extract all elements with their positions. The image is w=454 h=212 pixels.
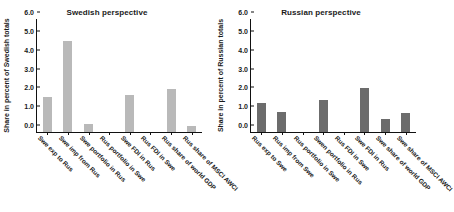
y-axis-tick-label: 4.0 [238,46,251,53]
bar [167,89,176,132]
bar-slot [161,19,182,132]
bar-slot [375,19,396,132]
y-axis-tick-label: 5.0 [24,27,37,34]
bar [63,41,72,132]
y-axis-tick-label: 5.0 [238,27,251,34]
y-axis-label: Share in percent of Russian totals [215,14,226,136]
bar-slot [140,19,161,132]
bar [257,103,266,132]
y-axis-tick-label: 2.0 [24,84,37,91]
chart-panel-swedish-perspective: Swedish perspective Share in percent of … [0,0,214,212]
bar-slot [292,19,313,132]
bar-slot [58,19,79,132]
bar [319,100,328,132]
bar-slot [120,19,141,132]
bar [125,95,134,132]
bar-series [251,19,416,132]
chart-panel-russian-perspective: Russian perspective Share in percent of … [214,0,428,212]
y-axis-label-text: Share in percent of Russian totals [217,18,224,131]
bar [360,88,369,132]
y-axis-tick-label: 1.0 [24,103,37,110]
bar-slot [272,19,293,132]
y-axis-label-text: Share in percent of Swedish totals [3,18,10,132]
bar-slot [78,19,99,132]
y-axis-tick-label: 4.0 [24,46,37,53]
y-axis-tick-label: 0.0 [24,122,37,129]
bar-slot [181,19,202,132]
y-axis-label: Share in percent of Swedish totals [1,14,12,136]
plot-area: 0.01.02.03.04.05.06.0 [250,19,416,133]
y-axis-tick-label: 3.0 [24,65,37,72]
bar [43,97,52,132]
bar-slot [334,19,355,132]
bar-slot [99,19,120,132]
x-axis-tick-labels: Swe exp to RusSwe imp from RusSwe portfo… [36,135,202,207]
y-axis-tick-label: 6.0 [24,9,37,16]
bar [84,124,93,132]
y-axis-tick-label: 2.0 [238,84,251,91]
x-axis-tick-labels: Rus exp to SweRus imp from SweRus portfo… [250,135,416,207]
bar-slot [37,19,58,132]
bar [401,113,410,132]
bar [381,119,390,132]
bar-series [37,19,202,132]
plot-area: 0.01.02.03.04.05.06.0 [36,19,202,133]
bar-slot [395,19,416,132]
bar-slot [313,19,334,132]
y-axis-tick-label: 1.0 [238,103,251,110]
y-axis-tick-label: 3.0 [238,65,251,72]
y-axis-tick-label: 0.0 [238,122,251,129]
bar-slot [251,19,272,132]
bar [277,112,286,132]
bar-slot [354,19,375,132]
y-axis-tick-label: 6.0 [238,9,251,16]
